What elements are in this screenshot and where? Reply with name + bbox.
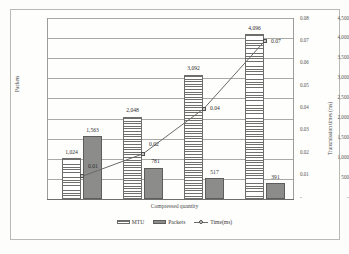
y-axis-right-tick: 0.02 <box>300 150 309 155</box>
legend-label-packets: Packets <box>168 219 185 225</box>
y-axis-left-tick: 500 <box>305 175 349 180</box>
y-axis-left-tick: - <box>305 195 349 200</box>
plot-area: 1,024 1,563 2,048 781 3,092 517 4,096 39… <box>47 18 294 199</box>
y-axis-left-tick: 2,000 <box>305 115 349 120</box>
time-marker <box>141 152 145 156</box>
time-marker <box>80 174 84 178</box>
data-label-time: 0.07 <box>271 39 281 45</box>
y-axis-left-title: Packets <box>14 76 20 92</box>
chart-figure: Packets Transmission times (ms) Compress… <box>0 0 349 254</box>
legend-label-mtu: MTU <box>132 219 144 225</box>
y-axis-right-title: Transmission times (ms) <box>327 102 333 155</box>
time-line-series <box>47 18 294 199</box>
legend-item-time[interactable]: Time(ms) <box>194 219 232 225</box>
line-marker-swatch-icon <box>194 220 208 225</box>
y-axis-right-tick: 0.01 <box>300 172 309 177</box>
legend-item-mtu[interactable]: MTU <box>117 219 144 225</box>
time-marker <box>263 39 267 43</box>
solid-bar-swatch-icon <box>153 220 166 225</box>
y-axis-right-tick: 0.08 <box>300 16 309 21</box>
y-axis-right-tick: 0.03 <box>300 127 309 132</box>
x-axis-title: Compressed quantity <box>0 203 349 209</box>
time-line-path <box>82 41 265 177</box>
y-axis-right-tick: 0.06 <box>300 60 309 65</box>
y-axis-left-tick: 1,500 <box>305 135 349 140</box>
y-axis-right-tick: 0.07 <box>300 38 309 43</box>
x-axis-line <box>47 199 294 200</box>
legend-label-time: Time(ms) <box>210 219 232 225</box>
y-axis-right-tick: - <box>300 195 302 200</box>
hatched-bar-swatch-icon <box>117 220 130 225</box>
data-label-time: 0.01 <box>88 164 98 170</box>
time-marker <box>202 107 206 111</box>
chart-legend: MTU Packets Time(ms) <box>0 219 349 225</box>
y-axis-left-tick: 4,000 <box>305 35 349 40</box>
y-axis-right-tick: 0.05 <box>300 83 309 88</box>
data-label-time: 0.02 <box>149 142 159 148</box>
y-axis-left-tick: 3,500 <box>305 55 349 60</box>
y-axis-left-tick: 1,000 <box>305 155 349 160</box>
y-axis-left-tick: 2,500 <box>305 95 349 100</box>
y-axis-right-tick: 0.04 <box>300 105 309 110</box>
legend-item-packets[interactable]: Packets <box>153 219 185 225</box>
y-axis-left-tick: 4,500 <box>305 16 349 21</box>
data-label-time: 0.04 <box>210 106 220 112</box>
y-axis-left-tick: 3,000 <box>305 75 349 80</box>
